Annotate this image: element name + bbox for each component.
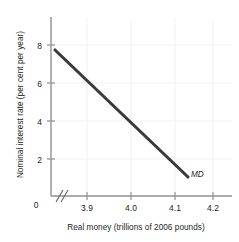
x-tick-label-4-0: 4.0 [118, 203, 144, 213]
money-demand-chart: Nominal interest rate (per cent per year… [0, 0, 239, 242]
md-curve [55, 50, 188, 177]
x-tick-label-3-9: 3.9 [74, 203, 100, 213]
x-axis-label: Real money (trillions of 2006 pounds) [36, 223, 236, 232]
y-tick-label-8: 8 [26, 41, 42, 51]
origin-label: 0 [30, 200, 42, 210]
y-tick-label-2: 2 [26, 155, 42, 165]
md-curve-label: MD [191, 170, 204, 179]
x-tick-label-4-2: 4.2 [200, 203, 226, 213]
gridlines [51, 18, 232, 192]
y-axis-label: Nominal interest rate (per cent per year… [16, 15, 25, 195]
x-tick-label-4-1: 4.1 [162, 203, 188, 213]
y-tick-label-6: 6 [26, 79, 42, 89]
y-tick-label-4: 4 [26, 117, 42, 127]
